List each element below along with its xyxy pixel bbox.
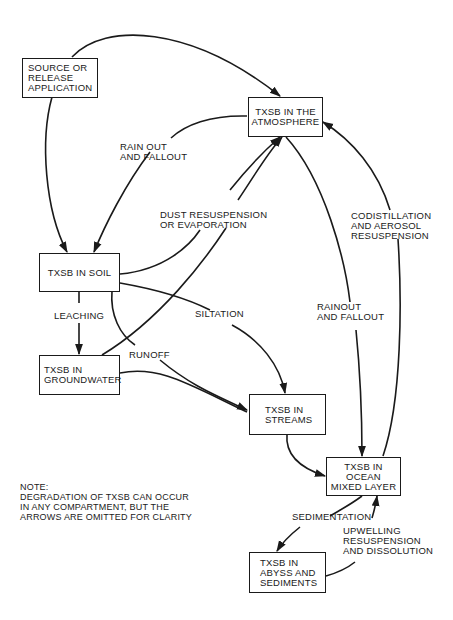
note-line-3: ARROWS ARE OMITTED FOR CLARITY (20, 512, 192, 522)
node-ocean-line-1: TXSB IN OCEAN (329, 462, 398, 482)
node-abyss-line-1: TXSB IN (260, 558, 320, 568)
node-abyss: TXSB IN ABYSS AND SEDIMENTS (249, 552, 326, 593)
edge-groundwater-atmosphere (102, 137, 282, 355)
label-rain-out: RAIN OUT AND FALLOUT (120, 142, 187, 162)
label-leaching: LEACHING (54, 311, 104, 321)
node-atmosphere: TXSB IN THE ATMOSPHERE (248, 97, 323, 137)
label-rainout-ocean: RAINOUT AND FALLOUT (317, 302, 384, 322)
node-streams-line-2: STREAMS (265, 415, 320, 425)
edge-soil-streams-siltation (120, 283, 285, 393)
node-streams-line-1: TXSB IN (265, 405, 320, 415)
degradation-note: NOTE: DEGRADATION OF TXSB CAN OCCUR IN A… (20, 482, 192, 522)
node-streams: TXSB IN STREAMS (249, 394, 326, 435)
node-source-line-3: APPLICATION (28, 83, 92, 93)
label-siltation: SILTATION (195, 309, 244, 319)
label-dust-resuspension: DUST RESUSPENSION OR EVAPORATION (160, 210, 267, 230)
node-ocean-line-2: MIXED LAYER (331, 482, 396, 492)
node-ocean: TXSB IN OCEAN MIXED LAYER (326, 457, 401, 496)
edge-streams-ocean (287, 434, 325, 476)
note-title: NOTE: (20, 482, 192, 492)
node-source: SOURCE OR RELEASE APPLICATION (22, 58, 98, 98)
node-atmosphere-line-2: ATMOSPHERE (252, 117, 320, 127)
edge-source-atmosphere (72, 35, 280, 96)
note-line-1: DEGRADATION OF TXSB CAN OCCUR (20, 492, 192, 502)
node-groundwater: TXSB IN GROUNDWATER (39, 355, 120, 395)
node-groundwater-line-2: GROUNDWATER (44, 375, 114, 385)
node-soil-line-1: TXSB IN SOIL (48, 268, 112, 278)
node-abyss-line-2: ABYSS AND (260, 568, 320, 578)
edge-source-soil (46, 97, 67, 252)
node-soil: TXSB IN SOIL (39, 253, 120, 292)
label-runoff: RUNOFF (129, 350, 170, 360)
note-line-2: IN ANY COMPARTMENT, BUT THE (20, 502, 192, 512)
label-upwelling: UPWELLING RESUSPENSION AND DISSOLUTION (343, 526, 433, 556)
node-abyss-line-3: SEDIMENTS (260, 578, 320, 588)
label-codistillation: CODISTILLATION AND AEROSOL RESUSPENSION (351, 211, 431, 241)
label-sedimentation: SEDIMENTATION (292, 512, 371, 522)
